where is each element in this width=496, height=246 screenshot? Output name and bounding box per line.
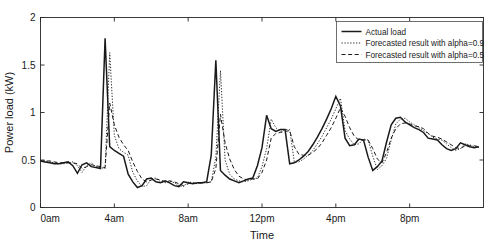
- y-tick-label: 0: [30, 202, 36, 213]
- x-tick-label: 8am: [178, 213, 197, 224]
- y-tick-label: 1.5: [22, 60, 36, 71]
- x-tick-label: 4pm: [326, 213, 345, 224]
- power-load-line-chart: 00.511.52 0am4am8am12pm4pm8pm Actual loa…: [0, 0, 496, 246]
- x-tick-label: 4am: [105, 213, 124, 224]
- figure-container: 00.511.52 0am4am8am12pm4pm8pm Actual loa…: [0, 0, 496, 246]
- legend-label-0: Actual load: [366, 28, 407, 37]
- y-tick-label: 0.5: [22, 155, 36, 166]
- chart-legend: Actual loadForecasted result with alpha=…: [337, 22, 485, 63]
- x-tick-label: 0am: [41, 213, 60, 224]
- x-axis-title: Time: [250, 229, 274, 241]
- legend-label-2: Forecasted result with alpha=0.5: [366, 51, 485, 60]
- y-axis-title: Power load (kW): [3, 72, 15, 153]
- x-tick-label: 8pm: [400, 213, 419, 224]
- x-tick-label: 12pm: [249, 213, 274, 224]
- y-tick-label: 2: [30, 12, 36, 23]
- y-tick-label: 1: [30, 107, 36, 118]
- legend-label-1: Forecasted result with alpha=0.9: [366, 39, 485, 48]
